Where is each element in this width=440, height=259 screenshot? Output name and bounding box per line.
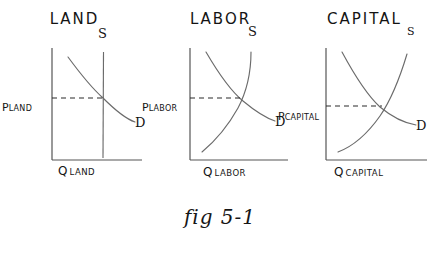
chart-panel-land: LAND S D PLAND bbox=[2, 0, 147, 195]
figure-container: LAND S D PLAND bbox=[0, 0, 440, 259]
chart-panel-labor: LABOR S D PLABOR QLABOR bbox=[148, 0, 293, 195]
x-axis-label-labor: QLABOR bbox=[203, 165, 246, 179]
figure-caption: fig 5-1 bbox=[0, 205, 440, 229]
price-label-labor: PLABOR bbox=[142, 101, 177, 114]
demand-curve-capital bbox=[342, 52, 416, 125]
price-label-land: PLAND bbox=[2, 101, 32, 114]
demand-curve-labor bbox=[206, 52, 275, 121]
chart-panel-capital: CAPITAL S D PCAPITAL QCAPITAL bbox=[292, 0, 437, 195]
chart-title-labor: LABOR bbox=[148, 10, 293, 28]
supply-curve-capital bbox=[338, 54, 407, 152]
chart-title-land: LAND bbox=[2, 10, 147, 28]
panels-row: LAND S D PLAND bbox=[0, 0, 440, 195]
demand-label-land: D bbox=[135, 115, 145, 130]
demand-curve-land bbox=[68, 57, 135, 122]
supply-label-capital: S bbox=[407, 25, 415, 38]
supply-label-labor: S bbox=[248, 24, 257, 39]
supply-label-land: S bbox=[98, 26, 107, 41]
chart-title-capital: CAPITAL bbox=[292, 10, 437, 28]
supply-curve-land bbox=[103, 52, 104, 158]
plot-area-capital: S D bbox=[292, 30, 437, 175]
demand-label-capital: D bbox=[416, 118, 426, 133]
plot-svg-capital bbox=[292, 30, 437, 175]
x-axis-label-capital: QCAPITAL bbox=[334, 165, 383, 179]
price-label-capital: PCAPITAL bbox=[278, 110, 319, 123]
x-axis-label-land: QLAND bbox=[58, 164, 95, 178]
